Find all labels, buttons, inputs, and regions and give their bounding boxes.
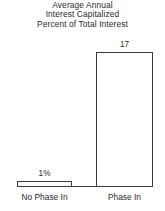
bar-phase-in [96, 52, 153, 187]
category-label-phase-in: Phase In [92, 192, 157, 202]
category-label-no-phase-in: No Phase In [9, 192, 80, 202]
value-label-phase-in: 17 [96, 40, 153, 49]
baseline-axis [71, 186, 97, 187]
bar-no-phase-in [17, 181, 72, 187]
bar-chart-figure: Average Annual Interest Capitalized Perc… [0, 0, 165, 211]
plot-area: 1% 17 No Phase In Phase In [0, 0, 165, 211]
value-label-no-phase-in: 1% [17, 169, 72, 178]
